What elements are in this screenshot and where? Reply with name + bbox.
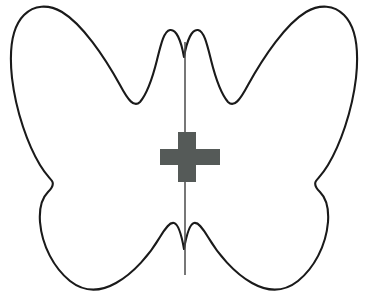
- figure-canvas: Butterfly outline with vertical line of …: [0, 0, 368, 298]
- butterfly-symmetry-figure: Butterfly outline with vertical line of …: [0, 0, 368, 298]
